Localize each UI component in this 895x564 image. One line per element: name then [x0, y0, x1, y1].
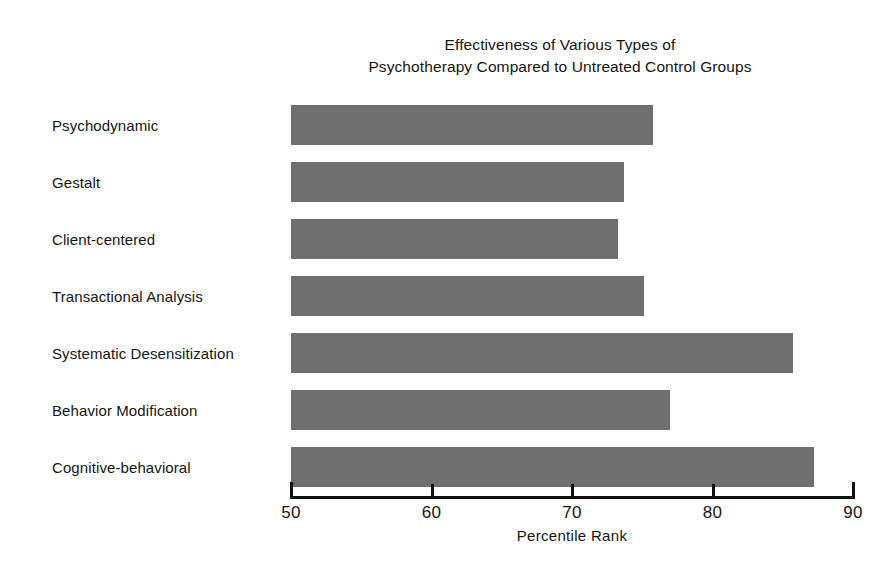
- category-label-gestalt: Gestalt: [52, 154, 100, 210]
- bar-row: Behavior Modification: [0, 382, 895, 438]
- bar-row: Cognitive-behavioral: [0, 439, 895, 495]
- x-tick-label-70: 70: [542, 503, 602, 523]
- category-label-behavior-modification: Behavior Modification: [52, 382, 198, 438]
- x-tick-label-80: 80: [683, 503, 743, 523]
- x-tick-70: [571, 484, 574, 499]
- bar-client-centered: [291, 219, 618, 259]
- category-label-psychodynamic: Psychodynamic: [52, 97, 158, 153]
- bar-row: Psychodynamic: [0, 97, 895, 153]
- x-tick-60: [431, 484, 434, 499]
- bar-cognitive-behavioral: [291, 447, 814, 487]
- bar-row: Gestalt: [0, 154, 895, 210]
- category-label-cognitive-behavioral: Cognitive-behavioral: [52, 439, 191, 495]
- bar-behavior-modification: [291, 390, 670, 430]
- bar-row: Systematic Desensitization: [0, 325, 895, 381]
- category-label-transactional-analysis: Transactional Analysis: [52, 268, 203, 324]
- bar-row: Transactional Analysis: [0, 268, 895, 324]
- bar-systematic-desensitization: [291, 333, 793, 373]
- bar-gestalt: [291, 162, 624, 202]
- x-tick-50: [290, 482, 293, 499]
- x-tick-80: [712, 484, 715, 499]
- x-tick-label-90: 90: [823, 503, 883, 523]
- bar-psychodynamic: [291, 105, 653, 145]
- x-axis-title: Percentile Rank: [291, 527, 853, 544]
- x-tick-label-60: 60: [402, 503, 462, 523]
- bar-chart-figure: Effectiveness of Various Types of Psycho…: [0, 0, 895, 564]
- category-label-client-centered: Client-centered: [52, 211, 155, 267]
- plot-area: Psychodynamic Gestalt Client-centered Tr…: [0, 0, 895, 564]
- bar-transactional-analysis: [291, 276, 644, 316]
- x-tick-90: [852, 482, 855, 499]
- x-tick-label-50: 50: [261, 503, 321, 523]
- category-label-systematic-desensitization: Systematic Desensitization: [52, 325, 234, 381]
- bar-row: Client-centered: [0, 211, 895, 267]
